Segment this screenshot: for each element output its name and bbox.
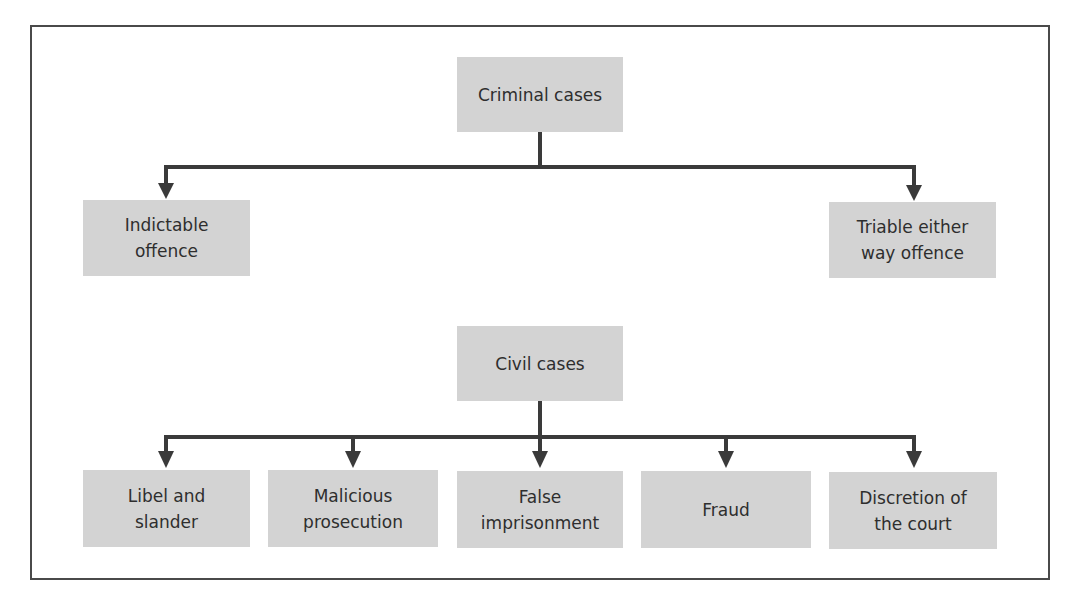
triable-either-way-label: Triable either way offence <box>857 214 968 266</box>
civil-cases-label: Civil cases <box>495 351 584 377</box>
false-imprisonment-label: False imprisonment <box>481 484 599 536</box>
false-imprisonment-node: False imprisonment <box>457 471 623 548</box>
triable-either-way-node: Triable either way offence <box>829 202 996 278</box>
libel-and-slander-node: Libel and slander <box>83 470 250 547</box>
fraud-label: Fraud <box>702 497 750 523</box>
libel-and-slander-label: Libel and slander <box>128 483 206 535</box>
discretion-of-the-court-node: Discretion of the court <box>829 472 997 549</box>
indictable-offence-node: Indictable offence <box>83 200 250 276</box>
civil-cases-node: Civil cases <box>457 326 623 401</box>
criminal-cases-node: Criminal cases <box>457 57 623 132</box>
malicious-prosecution-label: Malicious prosecution <box>303 483 403 535</box>
criminal-cases-label: Criminal cases <box>478 82 602 108</box>
discretion-of-the-court-label: Discretion of the court <box>859 485 966 537</box>
fraud-node: Fraud <box>641 471 811 548</box>
malicious-prosecution-node: Malicious prosecution <box>268 470 438 547</box>
indictable-offence-label: Indictable offence <box>125 212 209 264</box>
